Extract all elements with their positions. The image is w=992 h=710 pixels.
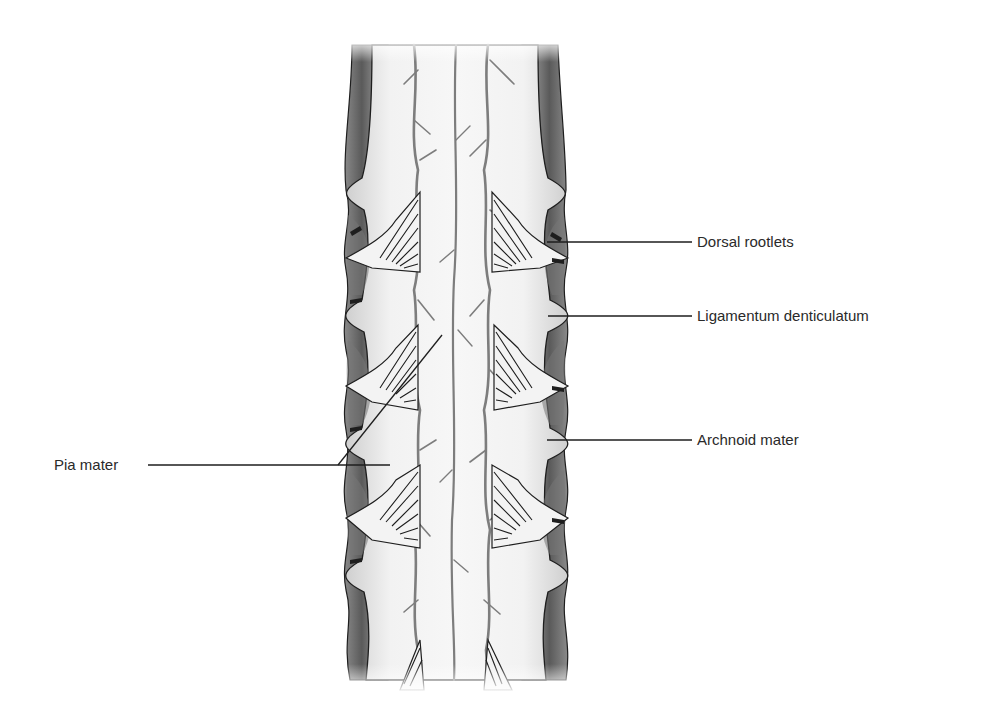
spinal-cord-illustration: [0, 0, 992, 710]
label-dorsal-rootlets: Dorsal rootlets: [697, 233, 794, 251]
spinal-cord-diagram: Dorsal rootlets Ligamentum denticulatum …: [0, 0, 992, 710]
label-archnoid-mater: Archnoid mater: [697, 431, 799, 449]
pia-mater-cord: [346, 45, 568, 680]
label-ligamentum-denticulatum: Ligamentum denticulatum: [697, 307, 869, 325]
label-pia-mater: Pia mater: [54, 456, 118, 474]
